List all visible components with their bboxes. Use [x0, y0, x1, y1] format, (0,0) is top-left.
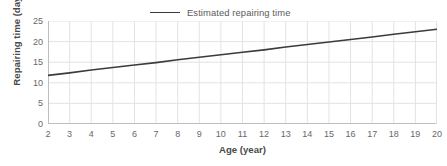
chart-container: Estimated repairing time Repairing time …	[0, 0, 447, 166]
y-tick-label: 20	[33, 37, 43, 47]
y-tick-label: 10	[33, 78, 43, 88]
x-tick-label: 7	[154, 129, 159, 139]
x-tick-label: 16	[346, 129, 356, 139]
chart-legend: Estimated repairing time	[150, 4, 290, 20]
x-tick-label: 5	[110, 129, 115, 139]
x-tick-label: 11	[238, 129, 247, 139]
legend-line-swatch	[150, 12, 180, 13]
plot-area: 0510152025 23456789101112131415161718192…	[48, 21, 437, 124]
x-tick-label: 14	[302, 129, 312, 139]
x-tick-label: 9	[197, 129, 202, 139]
x-tick-label: 3	[67, 129, 72, 139]
x-tick-label: 20	[432, 129, 442, 139]
plot-svg	[48, 21, 437, 124]
x-tick-label: 18	[389, 129, 399, 139]
x-tick-label: 2	[45, 129, 50, 139]
legend-entry-label: Estimated repairing time	[187, 7, 290, 18]
x-axis-title: Age (year)	[48, 144, 437, 155]
y-tick-label: 25	[33, 16, 43, 26]
x-tick-label: 17	[367, 129, 377, 139]
x-tick-label: 19	[410, 129, 420, 139]
y-tick-label: 0	[38, 119, 43, 129]
y-tick-label: 15	[33, 57, 43, 67]
x-tick-label: 13	[281, 129, 291, 139]
x-tick-label: 12	[259, 129, 269, 139]
x-tick-label: 6	[132, 129, 137, 139]
x-tick-label: 8	[175, 129, 180, 139]
x-tick-label: 10	[216, 129, 226, 139]
x-tick-label: 15	[324, 129, 334, 139]
y-axis-title: Repairing time (day)	[11, 0, 22, 94]
x-tick-label: 4	[89, 129, 94, 139]
y-tick-label: 5	[38, 98, 43, 108]
